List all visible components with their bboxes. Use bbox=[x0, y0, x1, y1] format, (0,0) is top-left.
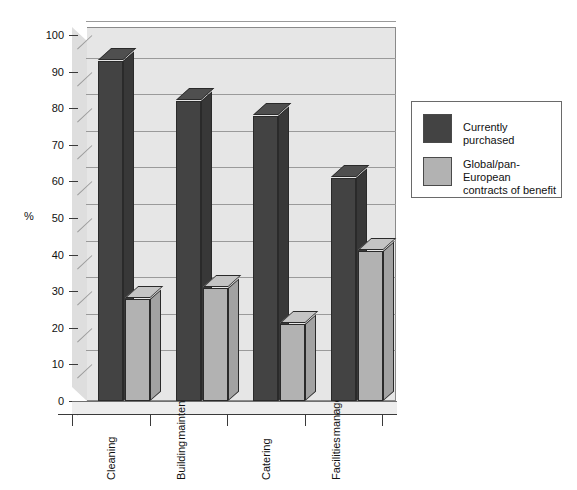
legend: Currently purchased Global/pan-European … bbox=[411, 101, 562, 198]
bar-facilities-management-series-2 bbox=[358, 237, 383, 401]
bar-front-face bbox=[203, 288, 228, 401]
y-tick-mark bbox=[69, 255, 78, 256]
bar-cleaning-series-1 bbox=[98, 47, 123, 401]
bar-building-maintenance-series-1 bbox=[176, 87, 201, 401]
x-axis-label-line: Cleaning bbox=[105, 437, 118, 480]
x-axis-tick bbox=[72, 414, 73, 426]
bar-front-face bbox=[253, 116, 278, 401]
y-tick-label-90: 90 bbox=[32, 67, 64, 78]
legend-item-global-contracts: Global/pan-European contracts of benefit bbox=[423, 157, 561, 197]
bar-building-maintenance-series-2 bbox=[203, 274, 228, 401]
gridline-100 bbox=[86, 21, 396, 22]
y-tick-mark bbox=[69, 72, 78, 73]
bar-front-face bbox=[98, 61, 123, 401]
bar-side-face bbox=[228, 278, 239, 401]
y-tick-label-100: 100 bbox=[32, 30, 64, 41]
bar-front-face bbox=[125, 299, 150, 401]
y-tick-label-60: 60 bbox=[32, 176, 64, 187]
y-tick-mark bbox=[69, 35, 78, 36]
x-axis-tick bbox=[382, 414, 383, 426]
y-axis-label: % bbox=[24, 211, 34, 222]
y-tick-label-70: 70 bbox=[32, 140, 64, 151]
x-axis-label-line: Building bbox=[175, 441, 188, 480]
legend-label-series-2: Global/pan-European contracts of benefit bbox=[463, 157, 561, 197]
legend-label-series-1: Currently purchased bbox=[463, 114, 561, 147]
y-tick-label-40: 40 bbox=[32, 250, 64, 261]
y-tick-label-30: 30 bbox=[32, 286, 64, 297]
y-tick-mark bbox=[69, 181, 78, 182]
y-tick-mark bbox=[69, 291, 78, 292]
x-axis-label-line: Facilities bbox=[330, 437, 343, 480]
bar-catering-series-2 bbox=[280, 310, 305, 401]
legend-swatch-series-1 bbox=[423, 114, 452, 143]
x-axis-tick bbox=[305, 414, 306, 426]
y-tick-mark bbox=[69, 108, 78, 109]
y-tick-mark bbox=[69, 328, 78, 329]
x-axis-tick bbox=[227, 414, 228, 426]
y-tick-label-80: 80 bbox=[32, 103, 64, 114]
bar-cleaning-series-2 bbox=[125, 285, 150, 401]
bar-side-face bbox=[383, 241, 394, 401]
axis-base-line bbox=[72, 401, 397, 402]
x-axis-label-catering: Catering bbox=[260, 438, 273, 480]
bar-front-face bbox=[331, 178, 356, 401]
bar-front-face bbox=[176, 101, 201, 401]
y-tick-label-50: 50 bbox=[32, 213, 64, 224]
bar-facilities-management-series-1 bbox=[331, 164, 356, 401]
y-tick-mark bbox=[69, 364, 78, 365]
x-axis-label-line: Catering bbox=[260, 438, 273, 480]
bar-front-face bbox=[280, 324, 305, 401]
legend-swatch-series-2 bbox=[423, 157, 452, 186]
bar-chart: 1009080706050403020100 % CleaningBuildin… bbox=[0, 0, 577, 490]
bar-side-face bbox=[305, 315, 316, 401]
legend-item-currently-purchased: Currently purchased bbox=[423, 114, 561, 147]
bar-catering-series-1 bbox=[253, 102, 278, 401]
y-tick-mark bbox=[69, 145, 78, 146]
bar-front-face bbox=[358, 251, 383, 401]
y-tick-label-10: 10 bbox=[32, 359, 64, 370]
y-tick-label-20: 20 bbox=[32, 323, 64, 334]
bar-side-face bbox=[150, 289, 161, 401]
x-axis-label-cleaning: Cleaning bbox=[105, 437, 118, 480]
x-axis-tick bbox=[150, 414, 151, 426]
plot-floor bbox=[72, 401, 397, 415]
y-tick-label-0: 0 bbox=[32, 396, 64, 407]
y-tick-mark bbox=[69, 218, 78, 219]
